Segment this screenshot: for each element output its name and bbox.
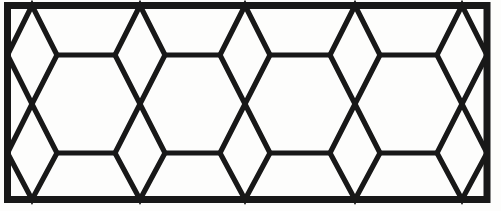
tiling-canvas [0,0,501,211]
tiling-figure [0,0,501,211]
figure-background [0,0,501,211]
